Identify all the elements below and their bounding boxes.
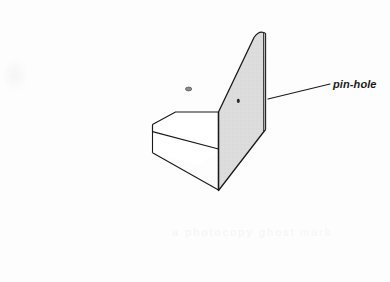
scan-ghost-text-1: a photocopy ghost bbox=[172, 226, 296, 238]
pinhole-camera-diagram bbox=[0, 0, 390, 282]
pin-hole-label: pin-hole bbox=[333, 78, 377, 90]
wedge-base-body bbox=[153, 112, 219, 190]
base-body-fill bbox=[153, 112, 219, 165]
panel-face bbox=[219, 32, 266, 190]
figure-canvas: pin-hole a photocopy ghost mark bbox=[0, 0, 390, 282]
upright-screen-panel bbox=[219, 32, 266, 190]
pin-head bbox=[186, 87, 192, 91]
callout-leader-line bbox=[268, 84, 330, 99]
panel-edge-thickness bbox=[264, 33, 266, 132]
scan-ghost-text-2: mark bbox=[300, 226, 332, 238]
